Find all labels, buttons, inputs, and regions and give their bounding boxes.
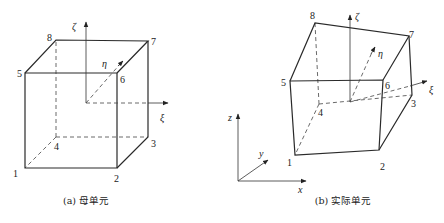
hidden-edge-4-8 bbox=[315, 23, 319, 104]
global-z-label: z bbox=[227, 112, 232, 123]
eta-label: η bbox=[378, 48, 383, 59]
vertex-label-2: 2 bbox=[114, 173, 119, 184]
panel-b-actual-element: ζ ξ η 1 2 3 4 5 6 7 8 z x y (b) 实际单元 bbox=[227, 10, 434, 206]
vertex-label-2: 2 bbox=[380, 161, 385, 172]
zeta-label: ζ bbox=[72, 21, 77, 33]
hidden-edge-4-1 bbox=[295, 104, 319, 155]
vertex-label-3: 3 bbox=[411, 98, 416, 109]
vertex-label-1: 1 bbox=[287, 157, 292, 168]
global-y-axis bbox=[238, 160, 268, 181]
vertex-label-6: 6 bbox=[120, 74, 125, 85]
global-x-label: x bbox=[297, 184, 303, 195]
vertex-label-4: 4 bbox=[54, 141, 59, 152]
vertex-label-3: 3 bbox=[151, 138, 156, 149]
vertex-label-7: 7 bbox=[151, 36, 156, 47]
global-y-label: y bbox=[258, 148, 264, 159]
top-face-edges bbox=[290, 23, 409, 81]
hidden-edge-4-1 bbox=[25, 137, 56, 168]
xi-label: ξ bbox=[160, 112, 165, 124]
hidden-edge-4-3 bbox=[319, 95, 412, 104]
eta-label: η bbox=[102, 58, 107, 69]
zeta-label: ζ bbox=[355, 11, 360, 23]
top-face-edges bbox=[25, 40, 148, 73]
xi-axis-dashed bbox=[350, 86, 410, 102]
eta-axis bbox=[86, 63, 121, 103]
eta-arrowhead bbox=[371, 47, 375, 54]
figure-canvas: ζ ξ η 1 2 3 4 5 6 7 8 (a) 母单元 ζ ξ η 1 2 … bbox=[0, 0, 444, 223]
right-face-edges bbox=[117, 41, 148, 168]
vertex-label-5: 5 bbox=[17, 68, 22, 79]
vertex-label-8: 8 bbox=[47, 32, 52, 43]
panel-a-parent-element: ζ ξ η 1 2 3 4 5 6 7 8 (a) 母单元 bbox=[13, 21, 168, 206]
caption-b: (b) 实际单元 bbox=[315, 195, 372, 206]
vertex-label-1: 1 bbox=[13, 168, 18, 179]
vertex-label-8: 8 bbox=[310, 10, 315, 21]
eta-arrowhead bbox=[118, 61, 123, 66]
vertex-label-4: 4 bbox=[318, 107, 323, 118]
xi-axis bbox=[410, 81, 427, 86]
vertex-label-6: 6 bbox=[385, 80, 390, 91]
front-face bbox=[290, 80, 383, 155]
eta-axis bbox=[350, 50, 373, 102]
xi-label: ξ bbox=[429, 84, 434, 96]
vertex-label-7: 7 bbox=[409, 29, 414, 40]
vertex-label-5: 5 bbox=[281, 77, 286, 88]
caption-a: (a) 母单元 bbox=[63, 195, 109, 206]
